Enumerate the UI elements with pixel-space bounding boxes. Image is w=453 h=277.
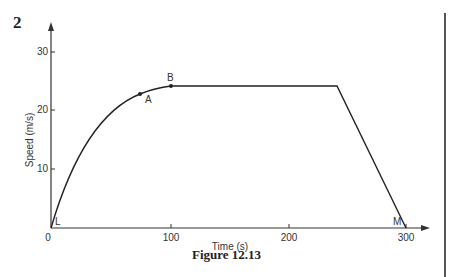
y-tick-10: 10: [37, 163, 49, 174]
x-tick-300: 300: [398, 232, 415, 243]
point-m-label: M: [393, 216, 401, 227]
x-tick-200: 200: [281, 232, 298, 243]
page-margin-rule: [444, 13, 446, 277]
point-b-marker: [169, 84, 173, 88]
point-b-label: B: [167, 72, 174, 83]
figure-caption: Figure 12.13: [0, 247, 453, 263]
y-tick-30: 30: [37, 46, 49, 57]
point-a-label: A: [145, 94, 152, 105]
y-axis-arrow-icon: [48, 22, 54, 31]
x-axis-arrow-icon: [421, 225, 430, 231]
x-tick-100: 100: [163, 232, 180, 243]
y-axis-title: Speed (m/s): [24, 113, 35, 167]
speed-curve: [51, 86, 406, 228]
origin-label: 0: [45, 232, 51, 243]
speed-time-graph: 10 20 30 0 100 200 300 Time (s) Speed (m…: [0, 0, 453, 277]
y-tick-20: 20: [37, 104, 49, 115]
point-a-marker: [138, 92, 142, 96]
point-l-label: L: [55, 216, 61, 227]
